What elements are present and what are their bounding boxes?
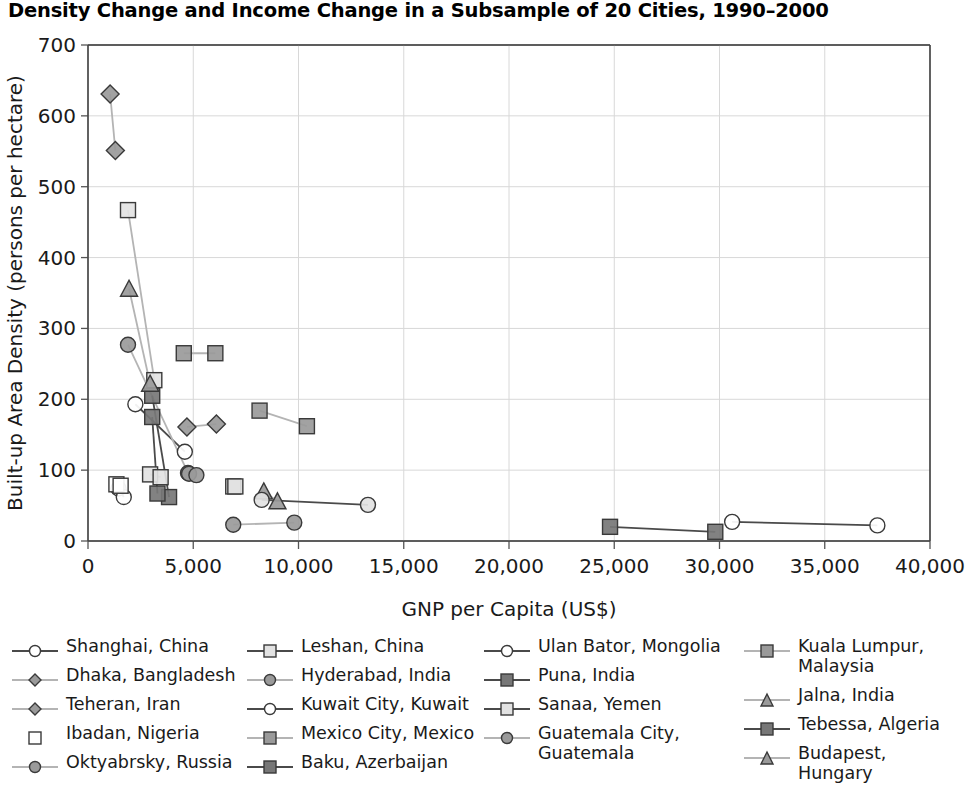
legend-marker-triangle-icon xyxy=(740,687,794,713)
data-point-diamond xyxy=(106,142,124,160)
data-point-square xyxy=(228,479,243,494)
legend-marker-square-icon xyxy=(740,638,794,664)
legend-point xyxy=(265,675,276,686)
legend-point xyxy=(501,674,513,686)
legend-marker-circle-icon xyxy=(480,725,534,751)
data-point-circle xyxy=(120,337,135,352)
data-point-square xyxy=(603,519,618,534)
x-tick-label: 5,000 xyxy=(165,554,222,578)
data-point-square xyxy=(150,486,165,501)
legend-item-label: Ulan Bator, Mongolia xyxy=(538,636,721,656)
legend-item[interactable]: Teheran, Iran xyxy=(8,696,248,725)
legend-point xyxy=(265,704,276,715)
legend-marker-circle-icon xyxy=(243,667,297,693)
y-tick-label: 400 xyxy=(38,246,76,270)
legend-item-label: Teheran, Iran xyxy=(66,694,181,714)
x-tick-label: 0 xyxy=(82,554,95,578)
y-tick-label: 700 xyxy=(38,33,76,57)
legend-item[interactable]: Kuala Lumpur, Malaysia xyxy=(740,638,965,687)
legend-item-label: Tebessa, Algeria xyxy=(798,714,940,734)
data-point-square xyxy=(708,524,723,539)
legend-marker-square-icon xyxy=(8,725,62,751)
legend-point xyxy=(501,703,513,715)
data-point-square xyxy=(120,203,135,218)
legend-item[interactable]: Hyderabad, India xyxy=(243,667,483,696)
data-point-circle xyxy=(870,518,885,533)
legend-item[interactable]: Oktyabrsky, Russia xyxy=(8,754,248,783)
legend-item-label: Budapest, Hungary xyxy=(798,743,965,783)
data-point-circle xyxy=(177,444,192,459)
legend-item-label: Sanaa, Yemen xyxy=(538,694,662,714)
legend-column: Leshan, ChinaHyderabad, IndiaKuwait City… xyxy=(243,638,483,783)
x-tick-label: 15,000 xyxy=(369,554,439,578)
data-point-square xyxy=(153,470,168,485)
x-tick-label: 20,000 xyxy=(474,554,544,578)
data-point-circle xyxy=(226,517,241,532)
legend-marker-square-icon xyxy=(740,716,794,742)
series-line xyxy=(233,523,294,525)
y-tick-label: 300 xyxy=(38,316,76,340)
legend-item[interactable]: Kuwait City, Kuwait xyxy=(243,696,483,725)
legend-item[interactable]: Dhaka, Bangladesh xyxy=(8,667,248,696)
y-axis-label: Built-up Area Density (persons per hecta… xyxy=(3,75,27,511)
legend-column: Kuala Lumpur, MalaysiaJalna, IndiaTebess… xyxy=(740,638,965,774)
legend-marker-circle-icon xyxy=(480,638,534,664)
data-point-circle xyxy=(189,468,204,483)
legend-point xyxy=(502,646,513,657)
legend-item[interactable]: Sanaa, Yemen xyxy=(480,696,740,725)
chart-plot-area: 010020030040050060070005,00010,00015,000… xyxy=(0,28,965,628)
legend-point xyxy=(29,703,41,715)
data-point-circle xyxy=(254,492,269,507)
legend-item-label: Shanghai, China xyxy=(66,636,209,656)
legend-item-label: Dhaka, Bangladesh xyxy=(66,665,236,685)
legend-marker-square-icon xyxy=(480,667,534,693)
legend-item[interactable]: Tebessa, Algeria xyxy=(740,716,965,745)
legend-item[interactable]: Mexico City, Mexico xyxy=(243,725,483,754)
legend-item[interactable]: Guatemala City, Guatemala xyxy=(480,725,740,774)
legend-marker-circle-icon xyxy=(243,696,297,722)
legend-item[interactable]: Shanghai, China xyxy=(8,638,248,667)
data-point-square xyxy=(145,410,160,425)
data-point-square xyxy=(176,346,191,361)
legend-item-label: Kuala Lumpur, Malaysia xyxy=(798,636,924,676)
legend-item-label: Mexico City, Mexico xyxy=(301,723,474,743)
legend-item-label: Hyderabad, India xyxy=(301,665,451,685)
x-tick-label: 30,000 xyxy=(685,554,755,578)
legend-item[interactable]: Jalna, India xyxy=(740,687,965,716)
legend-item-label: Baku, Azerbaijan xyxy=(301,752,448,772)
legend-item[interactable]: Ulan Bator, Mongolia xyxy=(480,638,740,667)
data-point-diamond xyxy=(101,85,119,103)
y-tick-label: 500 xyxy=(38,175,76,199)
legend-column: Ulan Bator, MongoliaPuna, IndiaSanaa, Ye… xyxy=(480,638,740,774)
series-line xyxy=(610,527,715,532)
legend-item[interactable]: Budapest, Hungary xyxy=(740,745,965,774)
legend-item[interactable]: Baku, Azerbaijan xyxy=(243,754,483,783)
chart-legend: Shanghai, ChinaDhaka, BangladeshTeheran,… xyxy=(0,638,965,787)
data-point-square xyxy=(113,478,128,493)
legend-point xyxy=(264,645,276,657)
legend-item[interactable]: Ibadan, Nigeria xyxy=(8,725,248,754)
legend-marker-square-icon xyxy=(243,638,297,664)
y-tick-label: 600 xyxy=(38,104,76,128)
legend-item-label: Puna, India xyxy=(538,665,635,685)
data-point-square xyxy=(208,346,223,361)
legend-marker-circle-icon xyxy=(8,638,62,664)
legend-point xyxy=(761,723,773,735)
legend-point xyxy=(29,674,41,686)
legend-marker-triangle-icon xyxy=(740,745,794,771)
legend-item-label: Ibadan, Nigeria xyxy=(66,723,200,743)
legend-point xyxy=(29,732,41,744)
x-axis-label: GNP per Capita (US$) xyxy=(401,597,616,621)
legend-item[interactable]: Leshan, China xyxy=(243,638,483,667)
x-tick-label: 10,000 xyxy=(264,554,334,578)
legend-point xyxy=(30,646,41,657)
legend-marker-square-icon xyxy=(243,725,297,751)
x-tick-label: 35,000 xyxy=(790,554,860,578)
legend-item-label: Guatemala City, Guatemala xyxy=(538,723,680,763)
legend-item-label: Leshan, China xyxy=(301,636,424,656)
data-point-circle xyxy=(360,497,375,512)
legend-point xyxy=(502,733,513,744)
series-line xyxy=(732,522,877,526)
data-point-triangle xyxy=(121,280,138,296)
legend-item[interactable]: Puna, India xyxy=(480,667,740,696)
